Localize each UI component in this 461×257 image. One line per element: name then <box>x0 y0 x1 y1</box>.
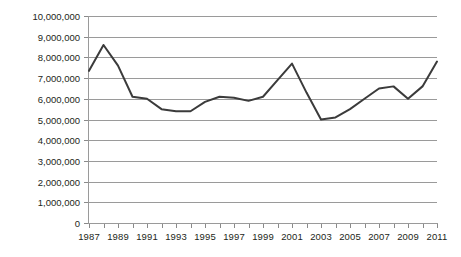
series-1-line <box>89 45 437 120</box>
series-line-svg <box>0 0 461 257</box>
line-chart: 01,000,0002,000,0003,000,0004,000,0005,0… <box>0 0 461 257</box>
